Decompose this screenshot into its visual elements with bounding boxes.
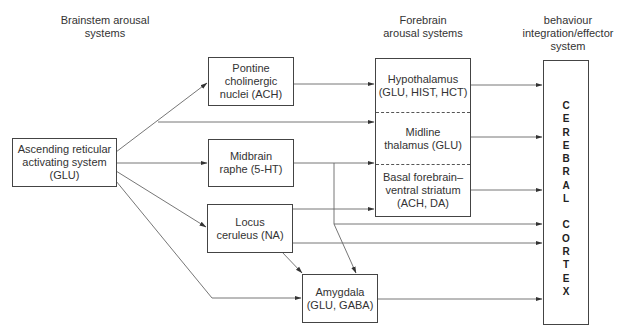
- cortex-letter-gap: [544, 205, 588, 218]
- node-pontine-line2: cholinergic: [220, 75, 282, 88]
- node-raphe: Midbrain raphe (5-HT): [208, 139, 294, 187]
- cortex-letter: R: [544, 126, 588, 139]
- cortex-letter: B: [544, 152, 588, 165]
- node-amygdala-line1: Amygdala: [307, 286, 374, 299]
- node-basal-line3: (ACH, DA): [383, 197, 463, 210]
- node-basal-line2: ventral striatum: [383, 184, 463, 197]
- node-locus-line1: Locus: [216, 216, 283, 229]
- cortex-letter: A: [544, 179, 588, 192]
- node-basal-forebrain: Basal forebrain– ventral striatum (ACH, …: [376, 165, 470, 216]
- cortex-letter: X: [544, 285, 588, 298]
- arrow-aras-to-pontine: [116, 83, 207, 152]
- node-cerebral-cortex: C E R E B R A L C O R T E X: [543, 60, 589, 325]
- node-pontine: Pontine cholinergic nuclei (ACH): [208, 57, 294, 106]
- node-locus-line2: ceruleus (NA): [216, 229, 283, 242]
- node-hypothalamus-line1: Hypothalamus: [379, 73, 468, 86]
- node-aras: Ascending reticular activating system (G…: [12, 138, 117, 187]
- node-locus-ceruleus: Locus ceruleus (NA): [207, 204, 293, 253]
- arrow-locus-to-amygdala: [282, 252, 302, 273]
- cortex-letter: E: [544, 139, 588, 152]
- cortex-letter: C: [544, 218, 588, 231]
- header-behaviour-line1: behaviour: [518, 14, 618, 27]
- node-pontine-line1: Pontine: [220, 62, 282, 75]
- arrow-raphe-to-amygdala: [334, 224, 356, 273]
- node-aras-line2: activating system: [18, 156, 112, 169]
- node-forebrain-group: Hypothalamus (GLU, HIST, HCT) Midline th…: [375, 58, 471, 217]
- cortex-vertical-label: C E R E B R A L C O R T E X: [544, 99, 588, 298]
- header-brainstem-line2: systems: [40, 27, 170, 40]
- header-forebrain-line2: arousal systems: [368, 27, 478, 40]
- node-basal-line1: Basal forebrain–: [383, 171, 463, 184]
- node-midline-thalamus: Midline thalamus (GLU): [376, 113, 470, 165]
- cortex-letter: C: [544, 99, 588, 112]
- header-forebrain: Forebrain arousal systems: [368, 14, 478, 40]
- cortex-letter: R: [544, 245, 588, 258]
- node-amygdala: Amygdala (GLU, GABA): [302, 274, 378, 323]
- cortex-letter: R: [544, 165, 588, 178]
- cortex-letter: L: [544, 192, 588, 205]
- header-behaviour-line2: integration/effector: [518, 27, 618, 40]
- node-pontine-line3: nuclei (ACH): [220, 88, 282, 101]
- cortex-letter: O: [544, 232, 588, 245]
- node-aras-line3: (GLU): [18, 169, 112, 182]
- node-hypothalamus-line2: (GLU, HIST, HCT): [379, 86, 468, 99]
- cortex-letter: E: [544, 112, 588, 125]
- header-brainstem: Brainstem arousal systems: [40, 14, 170, 40]
- header-brainstem-line1: Brainstem arousal: [40, 14, 170, 27]
- node-hypothalamus: Hypothalamus (GLU, HIST, HCT): [376, 59, 470, 112]
- node-aras-line1: Ascending reticular: [18, 143, 112, 156]
- header-behaviour: behaviour integration/effector system: [518, 14, 618, 53]
- node-amygdala-line2: (GLU, GABA): [307, 299, 374, 312]
- node-raphe-line2: raphe (5-HT): [220, 163, 283, 176]
- header-behaviour-line3: system: [518, 40, 618, 53]
- cortex-letter: E: [544, 272, 588, 285]
- node-thalamus-line2: thalamus (GLU): [384, 139, 462, 152]
- header-forebrain-line1: Forebrain: [368, 14, 478, 27]
- cortex-letter: T: [544, 258, 588, 271]
- node-raphe-line1: Midbrain: [220, 150, 283, 163]
- arrow-aras-to-locus: [116, 171, 206, 227]
- node-thalamus-line1: Midline: [384, 126, 462, 139]
